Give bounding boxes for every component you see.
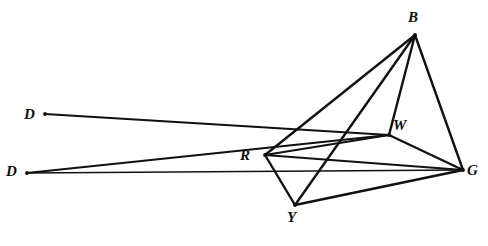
vertex-label-g: G bbox=[467, 163, 478, 178]
vertex-point-y bbox=[293, 203, 297, 207]
geometry-figure: DDRYBWG bbox=[0, 0, 488, 246]
vertex-label-y: Y bbox=[287, 210, 296, 225]
vertex-point-r bbox=[263, 153, 267, 157]
vertex-point-g bbox=[461, 168, 465, 172]
vertex-label-w: W bbox=[393, 118, 406, 133]
segment-Y-G bbox=[295, 170, 463, 205]
vertex-label-d1: D bbox=[24, 107, 35, 122]
segment-R-Y bbox=[265, 155, 295, 205]
vertex-point-d1 bbox=[43, 112, 47, 116]
segment-D2-G bbox=[27, 170, 463, 173]
segment-D1-W bbox=[45, 114, 389, 135]
vertex-point-w bbox=[387, 133, 391, 137]
segment-D2-W bbox=[27, 135, 389, 173]
figure-canvas bbox=[0, 0, 488, 246]
vertex-point-b bbox=[413, 33, 417, 37]
vertex-label-r: R bbox=[240, 148, 250, 163]
vertex-label-d2: D bbox=[6, 164, 17, 179]
vertex-point-d2 bbox=[25, 171, 29, 175]
vertex-label-b: B bbox=[408, 10, 418, 25]
